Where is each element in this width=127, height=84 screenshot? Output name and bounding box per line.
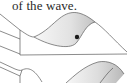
wave-figure-lower bbox=[0, 62, 124, 84]
point-marker bbox=[75, 35, 79, 39]
slab-top-edge bbox=[0, 62, 22, 70]
slab-top-edge-2 bbox=[0, 67, 20, 76]
wave-diagram bbox=[0, 0, 127, 83]
wave-figure-upper bbox=[0, 13, 127, 56]
baseline bbox=[20, 54, 127, 55]
slab-bottom bbox=[0, 46, 20, 54]
wave-back-edge-lower bbox=[22, 69, 42, 82]
slab-front bbox=[20, 70, 22, 76]
slab-edge bbox=[0, 31, 20, 39]
